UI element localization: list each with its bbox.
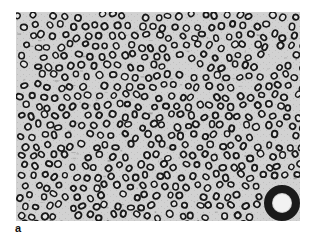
small-ring (178, 174, 185, 181)
debris-speck (218, 159, 220, 160)
small-ring (287, 145, 293, 152)
small-ring (213, 170, 219, 177)
small-ring (246, 214, 253, 221)
small-ring (49, 213, 56, 220)
small-ring (74, 194, 81, 201)
debris-speck (238, 86, 242, 87)
small-ring (92, 22, 98, 28)
small-ring (258, 92, 264, 97)
small-ring (42, 171, 49, 177)
small-ring (62, 172, 67, 178)
small-ring (122, 114, 128, 121)
small-ring (65, 132, 71, 138)
small-ring (141, 54, 148, 60)
small-ring (84, 91, 92, 98)
small-ring (137, 160, 145, 168)
small-ring (159, 140, 165, 147)
small-ring (95, 32, 102, 39)
small-ring (94, 103, 100, 110)
small-ring (129, 41, 135, 48)
debris-speck (180, 84, 182, 85)
debris-speck (166, 147, 169, 148)
small-ring (61, 150, 69, 158)
small-ring (194, 162, 200, 168)
small-ring (242, 61, 249, 69)
small-ring (100, 180, 107, 187)
debris-speck (279, 78, 280, 80)
small-ring (117, 100, 123, 107)
small-ring (157, 173, 164, 180)
small-ring (67, 40, 73, 47)
small-ring (218, 22, 225, 29)
small-ring (23, 101, 30, 108)
small-ring (233, 113, 240, 120)
small-ring (203, 74, 210, 81)
small-ring (138, 84, 145, 89)
small-ring (292, 14, 299, 20)
small-ring (294, 172, 300, 178)
small-ring (291, 32, 298, 40)
small-ring (253, 183, 259, 189)
small-ring (235, 52, 241, 58)
small-ring (220, 144, 227, 150)
small-ring (181, 202, 187, 208)
small-ring (45, 160, 53, 167)
small-ring (151, 104, 158, 111)
small-ring (200, 194, 208, 201)
small-ring (164, 70, 171, 78)
small-ring (149, 84, 157, 91)
small-ring (247, 31, 254, 38)
small-ring (120, 210, 127, 218)
small-ring (41, 194, 46, 200)
small-ring (139, 125, 145, 131)
small-ring (96, 151, 103, 157)
small-ring (92, 43, 98, 49)
small-ring (233, 191, 241, 198)
small-ring (99, 53, 105, 60)
small-ring (43, 84, 50, 90)
small-ring (132, 74, 139, 81)
small-ring (243, 121, 249, 128)
small-ring (206, 82, 213, 89)
debris-speck (295, 59, 297, 60)
small-ring (90, 164, 96, 171)
small-ring (151, 61, 157, 68)
small-ring (19, 53, 25, 59)
small-ring (183, 42, 190, 49)
small-ring (109, 110, 117, 118)
small-ring (155, 95, 162, 102)
small-ring (280, 94, 287, 101)
small-ring (71, 23, 77, 30)
small-ring (127, 205, 134, 210)
small-ring (197, 60, 204, 67)
small-ring (189, 172, 196, 180)
small-ring (271, 130, 278, 137)
small-ring (125, 22, 131, 29)
small-ring (96, 93, 103, 99)
small-ring (213, 192, 220, 200)
small-ring (20, 82, 28, 88)
small-ring (263, 21, 270, 27)
debris-speck (215, 212, 218, 213)
small-ring (284, 114, 290, 120)
small-ring (191, 75, 197, 81)
small-ring (128, 140, 134, 147)
small-ring (82, 40, 89, 46)
small-ring (40, 55, 48, 61)
small-ring (102, 141, 108, 148)
small-ring (185, 104, 192, 111)
small-ring (171, 200, 178, 207)
small-ring (202, 133, 209, 140)
debris-speck (187, 51, 190, 52)
small-ring (96, 215, 102, 221)
debris-speck (30, 46, 34, 47)
small-ring (57, 20, 63, 27)
small-ring (85, 154, 92, 160)
small-ring (133, 174, 139, 180)
small-ring (142, 172, 147, 179)
debris-speck (29, 200, 30, 201)
small-ring (83, 174, 90, 181)
small-ring (112, 145, 119, 150)
small-ring (28, 112, 35, 120)
small-ring (252, 164, 258, 171)
